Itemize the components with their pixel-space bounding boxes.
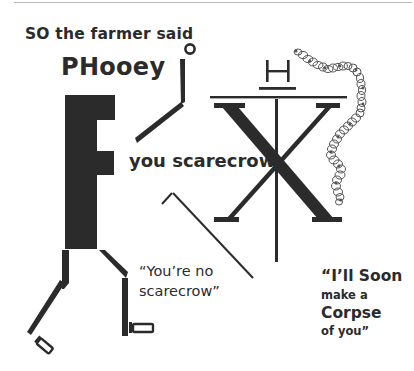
right-leg-icon (99, 250, 153, 336)
raised-arm-icon (135, 44, 195, 143)
left-leg-icon (27, 250, 69, 354)
f-letter-figure-icon (65, 95, 115, 249)
h-glyph-icon (259, 60, 296, 90)
dna-helix-chain-icon (294, 49, 366, 205)
poster-artwork (0, 0, 414, 371)
x-vertical-line (275, 99, 278, 262)
x-top-rule (210, 96, 347, 98)
